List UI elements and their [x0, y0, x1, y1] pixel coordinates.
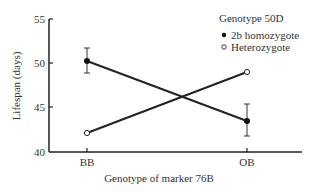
legend: Genotype 50D 2b homozygote Heterozygote [219, 12, 299, 53]
data-point-open [244, 69, 249, 74]
interaction-chart: 55 50 45 40 Lifespan (days) BB OB Genoty… [0, 0, 315, 192]
series-heterozygote [84, 69, 249, 135]
data-point-open [84, 130, 89, 135]
data-point-filled [244, 118, 250, 124]
data-point-filled [84, 58, 90, 64]
x-tick-ob: OB [239, 156, 254, 168]
y-tick-55: 55 [34, 13, 46, 25]
series-2b-homozygote [84, 48, 250, 136]
open-circle-icon [222, 45, 226, 49]
x-axis-label: Genotype of marker 76B [104, 172, 214, 184]
filled-circle-icon [222, 33, 226, 37]
y-axis: 55 50 45 40 Lifespan (days) [10, 13, 53, 158]
x-axis: BB OB Genotype of marker 76B [49, 148, 302, 184]
legend-title: Genotype 50D [219, 12, 284, 24]
y-axis-label: Lifespan (days) [10, 51, 23, 120]
x-tick-bb: BB [80, 156, 95, 168]
y-tick-50: 50 [34, 57, 46, 69]
y-tick-45: 45 [34, 101, 46, 113]
legend-item-heterozygote: Heterozygote [231, 41, 290, 53]
y-tick-40: 40 [34, 146, 46, 158]
legend-item-2b-homozygote: 2b homozygote [231, 29, 299, 41]
